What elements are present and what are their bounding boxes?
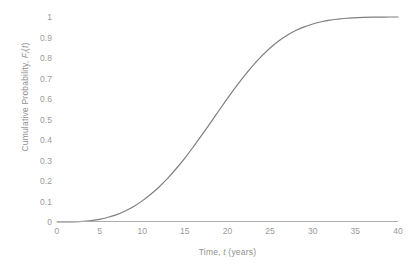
y-tick-label: 0.1 bbox=[6, 198, 52, 207]
series-curve-svg bbox=[57, 17, 398, 222]
x-axis-tick-labels: 0510152025303540 bbox=[57, 227, 398, 241]
x-tick-label: 5 bbox=[85, 227, 115, 236]
y-tick-label: 0 bbox=[6, 218, 52, 227]
x-tick-label: 0 bbox=[42, 227, 72, 236]
x-tick-label: 15 bbox=[170, 227, 200, 236]
x-tick-label: 20 bbox=[213, 227, 243, 236]
x-axis-line bbox=[57, 221, 398, 222]
x-tick-label: 35 bbox=[340, 227, 370, 236]
plot-area bbox=[57, 17, 398, 222]
chart-container: 00.10.20.30.40.50.60.70.80.91 0510152025… bbox=[0, 0, 415, 274]
x-tick-label: 30 bbox=[298, 227, 328, 236]
cumulative-probability-line bbox=[57, 17, 398, 222]
x-tick-label: 10 bbox=[127, 227, 157, 236]
x-tick-label: 40 bbox=[383, 227, 413, 236]
x-axis-title: Time, t (years) bbox=[57, 247, 398, 257]
y-axis-title: Cumulative Probability, Fi(t) bbox=[20, 2, 30, 192]
x-tick-label: 25 bbox=[255, 227, 285, 236]
